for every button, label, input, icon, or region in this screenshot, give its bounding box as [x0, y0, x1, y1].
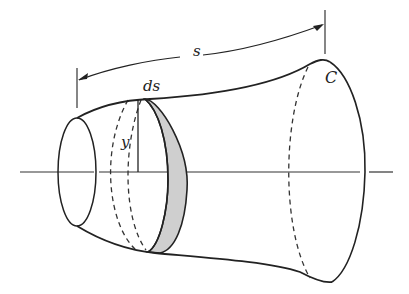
label-s: s — [193, 44, 201, 59]
shaded-band-ds — [145, 99, 187, 253]
dashed-cross-section-2 — [128, 100, 146, 250]
arrow-left-icon — [78, 73, 88, 80]
arc-length-s-right — [203, 25, 322, 55]
arrow-right-icon — [313, 24, 324, 31]
diagram-svg — [0, 0, 409, 294]
label-ds: ds — [143, 79, 160, 94]
profile-curve-bottom — [77, 226, 332, 282]
dashed-cross-section-1 — [111, 100, 136, 250]
surface-of-revolution-diagram: s ds y C — [0, 0, 409, 294]
arc-length-s-left — [79, 57, 180, 80]
label-curve-c: C — [325, 70, 337, 86]
label-y: y — [121, 135, 129, 150]
